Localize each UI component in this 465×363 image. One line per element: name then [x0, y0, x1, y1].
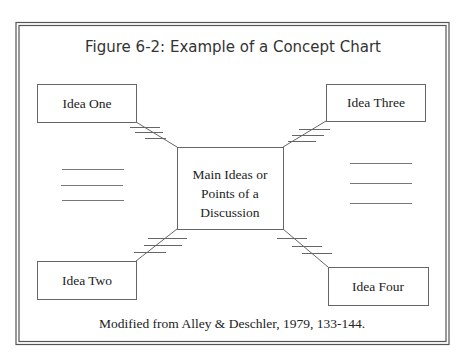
- blank-lines-right: [350, 164, 412, 204]
- idea-four-label: Idea Four: [352, 279, 405, 294]
- idea-two-label: Idea Two: [62, 273, 112, 288]
- connector-idea-one: [136, 122, 177, 147]
- figure-title: Figure 6-2: Example of a Concept Chart: [85, 38, 381, 56]
- main-ideas-line-2: Points of a: [201, 186, 259, 201]
- idea-three-label: Idea Three: [347, 95, 405, 110]
- idea-three-box: Idea Three: [327, 85, 426, 122]
- detail-ticks-idea-four: [277, 239, 332, 254]
- idea-one-box: Idea One: [38, 85, 137, 123]
- main-ideas-line-3: Discussion: [200, 205, 260, 220]
- detail-ticks-idea-two: [134, 239, 187, 253]
- main-ideas-line-1: Main Ideas or: [193, 167, 268, 182]
- idea-four-box: Idea Four: [329, 268, 429, 306]
- main-ideas-box: Main Ideas or Points of a Discussion: [178, 148, 284, 230]
- idea-two-box: Idea Two: [38, 262, 137, 300]
- connector-idea-three: [283, 121, 326, 147]
- connector-idea-four: [283, 229, 328, 267]
- concept-chart-figure: Figure 6-2: Example of a Concept Chart: [0, 0, 465, 363]
- blank-lines-left: [61, 170, 124, 201]
- figure-caption: Modified from Alley & Deschler, 1979, 13…: [99, 316, 365, 331]
- idea-one-label: Idea One: [62, 96, 111, 111]
